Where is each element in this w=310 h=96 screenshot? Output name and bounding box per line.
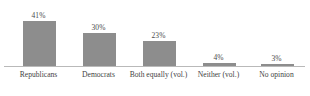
bar-value-label: 41% <box>8 11 69 20</box>
bar-value-label: 4% <box>188 53 249 62</box>
bar-group: 41% <box>8 0 69 67</box>
bar-value-label: 23% <box>128 31 189 40</box>
x-axis-labels: Republicans Democrats Both equally (vol.… <box>0 69 309 82</box>
bar-chart: 41% 30% 23% 4% 3% Republicans Democrats … <box>0 0 309 96</box>
x-axis-tick-label: No opinion <box>238 69 310 80</box>
bar <box>143 41 176 67</box>
x-axis-line <box>4 66 305 67</box>
bar-group: 4% <box>188 0 249 67</box>
bar-group: 30% <box>68 0 129 67</box>
bar-group: 23% <box>128 0 189 67</box>
plot-area: 41% 30% 23% 4% 3% <box>0 0 309 67</box>
bar <box>23 21 56 67</box>
bar-group: 3% <box>246 0 307 67</box>
bar-value-label: 3% <box>246 54 307 63</box>
bar <box>83 33 116 67</box>
bar-value-label: 30% <box>68 23 129 32</box>
